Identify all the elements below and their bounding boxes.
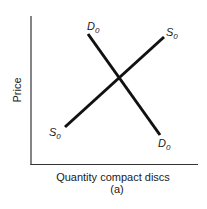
chart-caption: (a) xyxy=(110,183,123,195)
x-axis-label: Quantity compact discs xyxy=(56,171,170,183)
supply-label-top: S0 xyxy=(166,26,178,41)
demand-label-top: D0 xyxy=(87,20,100,35)
y-axis-label: Price xyxy=(11,77,23,102)
supply-label-bottom: S0 xyxy=(49,126,61,141)
supply-curve-s0 xyxy=(65,37,164,127)
demand-label-bottom: D0 xyxy=(158,137,171,152)
supply-demand-chart: D0 S0 S0 D0 Price Quantity compact discs… xyxy=(0,0,207,209)
